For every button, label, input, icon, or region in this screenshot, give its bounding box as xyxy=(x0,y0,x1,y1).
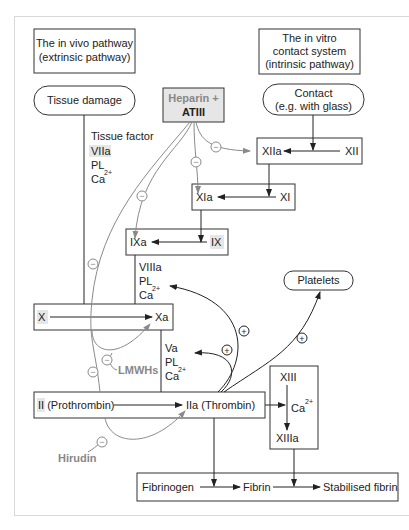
svg-text:The in vitro: The in vitro xyxy=(282,32,336,44)
hirudin-inhibition: − Hirudin xyxy=(58,411,185,464)
svg-text:The in vivo pathway: The in vivo pathway xyxy=(36,37,134,49)
svg-text:+: + xyxy=(299,334,304,344)
svg-text:PL: PL xyxy=(165,356,178,368)
prothrombin-box: II (Prothrombin) IIa (Thrombin) xyxy=(34,392,265,418)
svg-text:Fibrinogen: Fibrinogen xyxy=(142,481,194,493)
svg-text:IX: IX xyxy=(211,236,222,248)
svg-text:XI: XI xyxy=(280,191,290,203)
svg-text:−: − xyxy=(213,142,218,152)
prothrombinase-cofactors: Va PL Ca 2+ xyxy=(165,342,186,382)
svg-text:−: − xyxy=(104,355,109,365)
svg-text:VIIIa: VIIIa xyxy=(139,261,163,273)
svg-text:Heparin +: Heparin + xyxy=(168,92,218,104)
intrinsic-pathway-box: The in vitro contact system (intrinsic p… xyxy=(259,29,360,74)
fibrin-box: Fibrinogen Fibrin Stabilised fibrin xyxy=(137,473,398,501)
svg-text:LMWHs: LMWHs xyxy=(118,364,158,376)
svg-text:XIIIa: XIIIa xyxy=(276,432,300,444)
svg-text:2+: 2+ xyxy=(305,398,313,405)
svg-text:XIII: XIII xyxy=(280,371,297,383)
svg-text:+: + xyxy=(241,327,246,337)
factor-xiii-box: XIII Ca 2+ XIIIa xyxy=(270,366,318,449)
svg-text:Hirudin: Hirudin xyxy=(58,452,97,464)
svg-text:Contact: Contact xyxy=(295,87,333,99)
svg-text:Platelets: Platelets xyxy=(297,274,340,286)
factor-ix-box: IXa IX xyxy=(126,229,228,255)
svg-text:Tissue factor: Tissue factor xyxy=(91,130,154,142)
svg-text:2+: 2+ xyxy=(152,285,160,292)
svg-text:−: − xyxy=(139,191,144,201)
svg-text:PL: PL xyxy=(91,159,104,171)
svg-text:Va: Va xyxy=(165,342,179,354)
svg-text:2+: 2+ xyxy=(178,366,186,373)
svg-text:Xa: Xa xyxy=(155,311,169,323)
svg-text:contact system: contact system xyxy=(273,45,346,57)
svg-text:−: − xyxy=(193,157,198,167)
svg-text:(extrinsic pathway): (extrinsic pathway) xyxy=(39,51,131,63)
factor-xi-box: XIa XI xyxy=(192,184,295,210)
svg-text:+: + xyxy=(224,346,229,356)
lmwh-inhibition: − − LMWHs xyxy=(88,324,158,377)
svg-text:(e.g. with glass): (e.g. with glass) xyxy=(275,100,352,112)
svg-text:XIa: XIa xyxy=(196,191,213,203)
tissue-damage-node: Tissue damage xyxy=(34,86,135,115)
heparin-atiii-box: Heparin + ATIII xyxy=(163,88,224,122)
svg-text:XIIa: XIIa xyxy=(262,145,282,157)
factor-x-box: X Xa xyxy=(34,304,173,330)
platelets-node: Platelets xyxy=(284,271,353,290)
svg-text:Ca: Ca xyxy=(291,402,306,414)
svg-text:−: − xyxy=(99,437,104,447)
factor-xii-box: XIIa XII xyxy=(257,138,362,164)
svg-text:II (Prothrombin): II (Prothrombin) xyxy=(38,399,114,411)
contact-node: Contact (e.g. with glass) xyxy=(263,84,364,115)
tenase-cofactors: VIIIa PL Ca 2+ xyxy=(139,261,163,301)
extrinsic-pathway-box: The in vivo pathway (extrinsic pathway) xyxy=(34,29,135,73)
svg-text:−: − xyxy=(90,367,95,377)
svg-text:XII: XII xyxy=(345,145,358,157)
svg-text:−: − xyxy=(90,259,95,269)
svg-text:Tissue damage: Tissue damage xyxy=(47,94,122,106)
svg-text:Stabilised fibrin: Stabilised fibrin xyxy=(323,481,398,493)
svg-text:Fibrin: Fibrin xyxy=(243,481,271,493)
svg-text:IIa (Thrombin): IIa (Thrombin) xyxy=(186,399,255,411)
svg-text:(intrinsic pathway): (intrinsic pathway) xyxy=(265,58,354,70)
svg-text:VIIa: VIIa xyxy=(91,145,111,157)
svg-text:IXa: IXa xyxy=(130,236,147,248)
coagulation-cascade-diagram: The in vivo pathway (extrinsic pathway) … xyxy=(0,0,409,530)
svg-text:PL: PL xyxy=(139,275,152,287)
svg-text:X: X xyxy=(38,311,46,323)
svg-text:ATIII: ATIII xyxy=(182,106,205,118)
svg-text:2+: 2+ xyxy=(104,169,112,176)
